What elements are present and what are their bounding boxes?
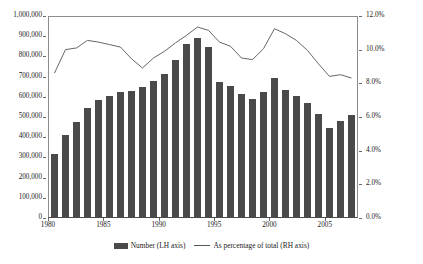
legend-item-label: As percentage of total (RH axis) bbox=[213, 241, 309, 250]
left-axis-tick-mark bbox=[43, 178, 46, 179]
chart-title bbox=[0, 0, 423, 5]
right-axis-tick-label: 4.0% bbox=[366, 147, 381, 154]
legend-item-label: Number (LH axis) bbox=[131, 241, 186, 250]
right-axis-tick-mark bbox=[359, 184, 362, 185]
legend-item-percentage: As percentage of total (RH axis) bbox=[194, 241, 309, 250]
left-axis-tick-mark bbox=[43, 137, 46, 138]
left-axis-tick-mark bbox=[43, 16, 46, 17]
left-axis-tick-mark bbox=[43, 36, 46, 37]
right-axis-tick-mark bbox=[359, 50, 362, 51]
right-axis-tick-mark bbox=[359, 117, 362, 118]
left-axis-tick-label: 500,000 bbox=[19, 113, 42, 120]
line-series-percentage bbox=[49, 17, 357, 218]
right-axis-tick-label: 6.0% bbox=[366, 113, 381, 120]
right-axis-tick-mark bbox=[359, 151, 362, 152]
left-axis-tick-mark bbox=[43, 77, 46, 78]
right-axis-tick-mark bbox=[359, 218, 362, 219]
right-axis-tick-label: 10.0% bbox=[366, 46, 385, 53]
right-axis-tick-label: 2.0% bbox=[366, 181, 381, 188]
x-axis-tick-label: 1985 bbox=[96, 222, 110, 229]
x-axis-tick-label: 2005 bbox=[318, 222, 332, 229]
right-axis-tick-mark bbox=[359, 16, 362, 17]
legend-bar-swatch-icon bbox=[114, 243, 128, 249]
legend-line-swatch-icon bbox=[194, 245, 210, 246]
left-axis-tick-label: 300,000 bbox=[19, 154, 42, 161]
left-axis-tick-mark bbox=[43, 198, 46, 199]
chart-container: 0100,000200,000300,000400,000500,000600,… bbox=[0, 0, 423, 264]
left-axis-tick-mark bbox=[43, 117, 46, 118]
right-percentage-axis: 0.0%2.0%4.0%6.0%8.0%10.0%12.0% bbox=[359, 16, 423, 218]
left-axis-tick-label: 200,000 bbox=[19, 174, 42, 181]
right-axis-tick-label: 0.0% bbox=[366, 214, 381, 221]
left-axis-tick-label: 700,000 bbox=[19, 73, 42, 80]
left-axis-tick-label: 600,000 bbox=[19, 93, 42, 100]
left-axis-tick-mark bbox=[43, 97, 46, 98]
x-category-axis: 198019851990199520002005 bbox=[48, 218, 358, 234]
left-axis-tick-label: 900,000 bbox=[19, 33, 42, 40]
right-axis-tick-label: 12.0% bbox=[366, 12, 385, 19]
right-axis-tick-mark bbox=[359, 83, 362, 84]
legend-item-number: Number (LH axis) bbox=[114, 241, 186, 250]
left-axis-tick-mark bbox=[43, 56, 46, 57]
left-axis-tick-label: 100,000 bbox=[19, 194, 42, 201]
x-axis-tick-label: 1980 bbox=[41, 222, 55, 229]
x-axis-tick-label: 1995 bbox=[207, 222, 221, 229]
left-axis-tick-mark bbox=[43, 218, 46, 219]
left-axis-tick-label: 400,000 bbox=[19, 134, 42, 141]
plot-area bbox=[48, 16, 358, 218]
chart-legend: Number (LH axis) As percentage of total … bbox=[0, 241, 423, 250]
left-value-axis: 0100,000200,000300,000400,000500,000600,… bbox=[0, 16, 46, 218]
x-axis-tick-label: 1990 bbox=[152, 222, 166, 229]
left-axis-tick-label: 800,000 bbox=[19, 53, 42, 60]
right-axis-tick-label: 8.0% bbox=[366, 80, 381, 87]
left-axis-tick-mark bbox=[43, 157, 46, 158]
x-axis-tick-label: 2000 bbox=[262, 222, 276, 229]
left-axis-tick-label: 1,000,000 bbox=[13, 12, 42, 19]
